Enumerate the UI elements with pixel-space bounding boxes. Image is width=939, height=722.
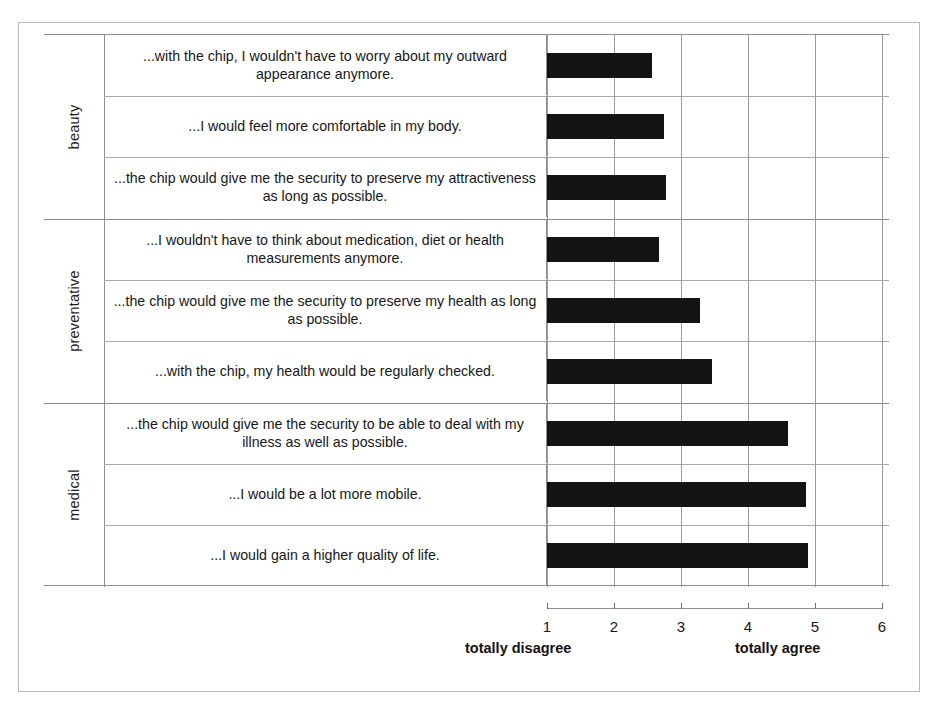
statement-label: ...I wouldn't have to think about medica… bbox=[104, 219, 547, 279]
axis-anchor-low: totally disagree bbox=[465, 640, 571, 656]
group-rail-medical: medical bbox=[44, 403, 104, 587]
bar bbox=[547, 175, 666, 200]
bar bbox=[547, 482, 806, 507]
statement-label: ...the chip would give me the security t… bbox=[104, 280, 547, 340]
axis-tick-label-4: 4 bbox=[733, 618, 763, 635]
group-label: preventative bbox=[66, 270, 82, 351]
gridline-6 bbox=[882, 35, 883, 587]
bars-plot-area bbox=[547, 35, 882, 587]
axis-tick-label-2: 2 bbox=[599, 618, 629, 635]
bar bbox=[547, 298, 700, 323]
axis-tick-4 bbox=[748, 603, 749, 609]
chart-plot-region: beauty preventative medical ...with the … bbox=[44, 34, 889, 586]
axis-tick-6 bbox=[882, 603, 883, 609]
statement-label: ...I would be a lot more mobile. bbox=[104, 464, 547, 524]
axis-tick-label-1: 1 bbox=[532, 618, 562, 635]
bar bbox=[547, 237, 659, 262]
x-axis: totally disagree totally agree 123456 bbox=[547, 608, 882, 609]
gridline-5 bbox=[815, 35, 816, 587]
statement-label: ...I would gain a higher quality of life… bbox=[104, 525, 547, 585]
statement-label: ...I would feel more comfortable in my b… bbox=[104, 96, 547, 156]
bar bbox=[547, 359, 712, 384]
statement-label: ...with the chip, my health would be reg… bbox=[104, 341, 547, 401]
bar bbox=[547, 114, 664, 139]
bar bbox=[547, 421, 788, 446]
bar bbox=[547, 53, 652, 78]
axis-tick-2 bbox=[614, 603, 615, 609]
statement-label: ...the chip would give me the security t… bbox=[104, 157, 547, 217]
axis-tick-1 bbox=[547, 603, 548, 609]
figure-frame: beauty preventative medical ...with the … bbox=[18, 22, 920, 692]
bar bbox=[547, 543, 808, 568]
group-label: beauty bbox=[66, 105, 82, 150]
group-rail-beauty: beauty bbox=[44, 35, 104, 219]
axis-tick-label-3: 3 bbox=[666, 618, 696, 635]
group-label: medical bbox=[66, 469, 82, 520]
statement-label: ...with the chip, I wouldn't have to wor… bbox=[104, 35, 547, 95]
axis-tick-5 bbox=[815, 603, 816, 609]
axis-tick-3 bbox=[681, 603, 682, 609]
axis-anchor-high: totally agree bbox=[735, 640, 820, 656]
statement-label: ...the chip would give me the security t… bbox=[104, 403, 547, 463]
group-rail-preventative: preventative bbox=[44, 219, 104, 403]
axis-tick-label-6: 6 bbox=[867, 618, 897, 635]
axis-tick-label-5: 5 bbox=[800, 618, 830, 635]
